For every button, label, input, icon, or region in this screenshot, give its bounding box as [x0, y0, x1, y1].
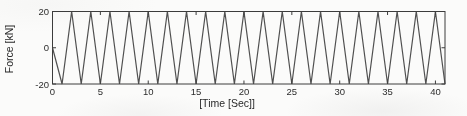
y-tick-label: -20 [35, 79, 49, 90]
scanned-figure-page: 0510152025303540-20020[Time [Sec]]Force … [0, 0, 467, 116]
x-tick-label: 20 [239, 86, 250, 97]
x-tick-label: 25 [287, 86, 298, 97]
x-tick-label: 15 [191, 86, 202, 97]
x-axis-label: [Time [Sec]] [199, 97, 255, 109]
x-tick-label: 5 [98, 86, 103, 97]
x-tick-label: 30 [334, 86, 345, 97]
x-tick-label: 35 [382, 86, 393, 97]
x-tick-label: 40 [430, 86, 441, 97]
y-tick-label: 20 [38, 6, 49, 17]
force-time-chart: 0510152025303540-20020[Time [Sec]]Force … [0, 0, 467, 116]
y-axis-label: Force [kN] [3, 25, 15, 74]
force-waveform-line [53, 12, 446, 85]
y-tick-label: 0 [44, 42, 49, 53]
x-tick-label: 10 [143, 86, 154, 97]
x-tick-label: 0 [50, 86, 55, 97]
